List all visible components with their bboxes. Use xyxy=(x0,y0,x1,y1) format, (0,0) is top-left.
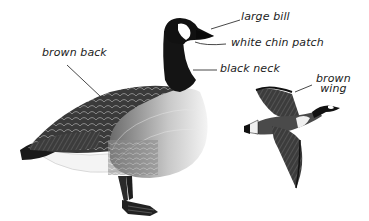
label-large-bill: large bill xyxy=(241,11,290,22)
flying-goose xyxy=(244,87,340,188)
goose-legs xyxy=(118,176,158,216)
label-white-chin-patch: white chin patch xyxy=(231,37,324,48)
label-brown-wing-line2: wing xyxy=(316,84,351,94)
leader-large-bill xyxy=(211,20,240,29)
upper-wing xyxy=(256,89,300,120)
goose-diagram: large bill white chin patch black neck b… xyxy=(0,0,369,221)
label-brown-wing: brown wing xyxy=(316,74,351,94)
label-brown-back: brown back xyxy=(42,47,107,58)
label-black-neck: black neck xyxy=(220,63,280,74)
leader-brown-back xyxy=(67,65,101,97)
leader-white-chin-patch xyxy=(195,42,226,45)
leader-brown-wing xyxy=(295,85,312,92)
diagram-artwork xyxy=(0,0,369,221)
